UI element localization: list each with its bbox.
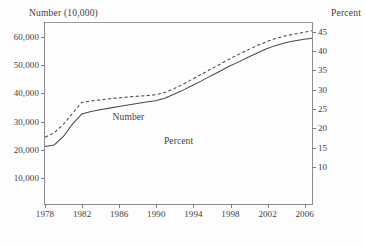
right-axis-tick-label: 20 (318, 123, 327, 133)
x-axis-tick-label: 1994 (184, 209, 202, 219)
x-axis-tick-label: 2002 (258, 209, 276, 219)
left-axis-tick (41, 178, 45, 179)
right-axis-tick-label: 30 (318, 85, 327, 95)
right-axis-tick (312, 148, 316, 149)
x-axis-tick-label: 1982 (73, 209, 91, 219)
right-axis-tick (312, 167, 316, 168)
x-axis-tick (82, 204, 83, 208)
left-axis-title: Number (10,000) (29, 8, 98, 18)
right-axis-tick-label: 35 (318, 65, 327, 75)
x-axis-tick (305, 204, 306, 208)
x-axis-tick (231, 204, 232, 208)
left-axis-tick-label: 60,000 (14, 32, 39, 42)
left-axis-tick-label: 50,000 (14, 60, 39, 70)
x-axis-tick-label: 2006 (296, 209, 314, 219)
left-axis-tick-label: 40,000 (14, 88, 39, 98)
series-lines (45, 23, 312, 204)
x-axis-tick-label: 1990 (147, 209, 165, 219)
left-axis-tick (41, 93, 45, 94)
x-axis-tick (45, 204, 46, 208)
left-axis-tick (41, 122, 45, 123)
right-axis-tick (312, 32, 316, 33)
left-axis-tick-label: 10,000 (14, 173, 39, 183)
x-axis-tick (156, 204, 157, 208)
right-axis-tick-label: 10 (318, 162, 327, 172)
right-axis-tick (312, 51, 316, 52)
x-axis-tick (193, 204, 194, 208)
plot-area: 10,00020,00030,00040,00050,00060,0001015… (44, 22, 313, 205)
x-axis-tick-label: 1986 (110, 209, 128, 219)
left-axis-tick-label: 20,000 (14, 145, 39, 155)
right-axis-tick-label: 45 (318, 27, 327, 37)
x-axis-tick-label: 1978 (36, 209, 54, 219)
x-axis-tick-label: 1998 (221, 209, 239, 219)
x-axis-tick (268, 204, 269, 208)
right-axis-tick (312, 109, 316, 110)
right-axis-title: Percent (331, 8, 361, 18)
left-axis-tick-label: 30,000 (14, 117, 39, 127)
left-axis-tick (41, 65, 45, 66)
series-annotation-percent: Percent (164, 136, 193, 146)
right-axis-tick (312, 70, 316, 71)
series-line-percent (45, 38, 312, 146)
chart-figure: Number (10,000) Percent 10,00020,00030,0… (0, 0, 365, 246)
right-axis-tick (312, 128, 316, 129)
left-axis-tick (41, 37, 45, 38)
x-axis-tick (119, 204, 120, 208)
right-axis-tick-label: 15 (318, 143, 327, 153)
left-axis-tick (41, 150, 45, 151)
series-annotation-number: Number (113, 112, 145, 122)
right-axis-tick-label: 40 (318, 46, 327, 56)
right-axis-tick (312, 90, 316, 91)
right-axis-tick-label: 25 (318, 104, 327, 114)
